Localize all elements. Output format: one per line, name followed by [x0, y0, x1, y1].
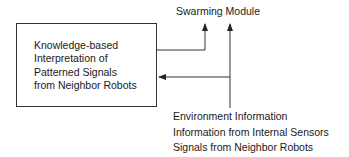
input-source-item: Information from Internal Sensors	[173, 125, 329, 141]
input-source-item: Environment Information	[173, 109, 329, 125]
input-source-item: Signals from Neighbor Robots	[173, 140, 329, 156]
input-sources: Environment Information Information from…	[173, 109, 329, 156]
output-arrow	[157, 24, 205, 50]
